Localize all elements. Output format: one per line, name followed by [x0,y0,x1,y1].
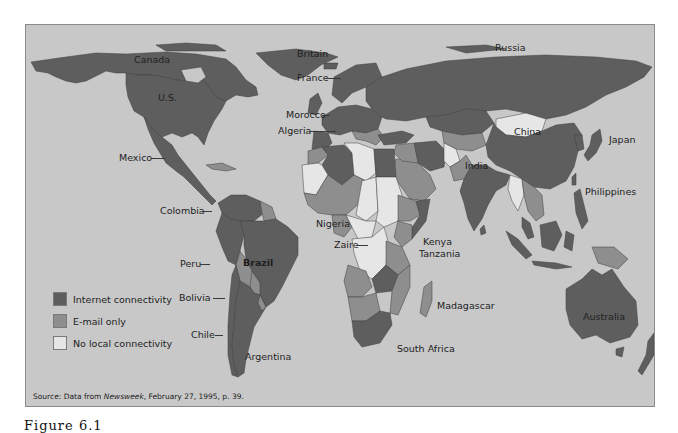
label-us: U.S. [158,93,177,103]
leader-colombia [202,211,212,212]
region-myanmar [508,175,524,211]
label-canada: Canada [134,55,170,65]
legend-label-email: E-mail only [73,316,126,327]
leader-chile [215,335,223,336]
region-java [532,261,572,269]
figure-caption: Figure 6.1 [24,418,103,433]
label-algeria: Algeria [278,126,311,136]
region-japan [584,129,602,161]
region-borneo [540,221,562,251]
region-kenya [394,221,412,247]
source-publication: Newsweek [104,392,144,401]
label-south-africa: South Africa [397,344,455,354]
region-india [460,165,510,231]
label-chile: Chile [191,330,215,340]
region-iceland [324,63,338,69]
legend-swatch-email [53,314,67,328]
region-cuba [206,163,236,171]
legend-item-email: E-mail only [53,310,172,332]
region-egypt [374,149,396,177]
region-malaysia [522,217,534,239]
label-china: China [514,127,541,137]
legend-label-internet: Internet connectivity [73,294,172,305]
label-madagascar: Madagascar [437,301,495,311]
region-sulawesi [564,231,574,251]
region-tasmania [616,347,624,357]
region-sri-lanka [480,225,486,235]
label-japan: Japan [609,135,636,145]
leader-algeria [310,131,336,132]
source-suffix: , February 27, 1995, p. 39. [144,392,244,401]
region-russia [366,55,652,121]
label-bolivia: Bolivia [179,293,211,303]
region-taiwan [572,173,576,185]
legend-label-none: No local connectivity [73,338,172,349]
map-frame: Canada U.S. Mexico Colombia Peru Brazil … [25,24,655,407]
leader-morocco [322,115,330,116]
label-morocco: Morocco [286,110,326,120]
source-note: Source: Data from Newsweek, February 27,… [33,392,244,401]
legend-item-internet: Internet connectivity [53,288,172,310]
label-argentina: Argentina [245,352,291,362]
label-kenya: Kenya [423,237,452,247]
label-france: France [297,73,329,83]
label-russia: Russia [495,43,526,53]
legend-item-none: No local connectivity [53,332,172,354]
label-philippines: Philippines [585,187,636,197]
label-britain: Britain [297,49,328,59]
legend-swatch-none [53,336,67,350]
label-mexico: Mexico [119,153,152,163]
leader-peru [200,264,210,265]
label-zaire: Zaire [334,240,359,250]
label-india: India [465,161,488,171]
legend: Internet connectivity E-mail only No loc… [53,288,172,354]
region-new-guinea [592,247,628,269]
label-peru: Peru [180,259,201,269]
source-prefix: Source: Data from [33,392,104,401]
region-turkey [378,131,414,145]
region-guianas [260,201,276,221]
label-brazil: Brazil [243,258,273,268]
leader-mexico [151,158,165,159]
legend-swatch-internet [53,292,67,306]
leader-bolivia [213,298,225,299]
leader-zaire [356,245,368,246]
leader-france [325,78,341,79]
label-colombia: Colombia [160,206,205,216]
region-australia [566,269,638,343]
label-australia: Australia [583,312,625,322]
region-new-zealand [638,333,654,375]
region-madagascar [420,281,432,317]
region-arctic-islands [156,43,226,51]
label-nigeria: Nigeria [316,219,350,229]
label-tanzania: Tanzania [419,249,460,259]
